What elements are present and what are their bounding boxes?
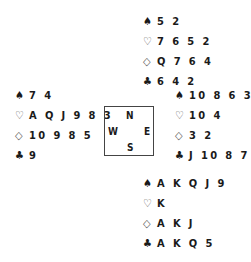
heart-icon: ♡ [175, 106, 189, 126]
diamond-icon: ◇ [175, 126, 189, 146]
compass-north: N [126, 110, 134, 121]
north-spades: ♠5 2 [143, 12, 213, 32]
spade-icon: ♠ [15, 86, 29, 106]
compass-south: S [127, 142, 133, 153]
south-clubs: ♣A K Q 5 [143, 234, 227, 254]
diamond-icon: ◇ [143, 52, 157, 72]
club-icon: ♣ [143, 72, 157, 92]
north-diamonds: ◇Q 7 6 4 [143, 52, 213, 72]
heart-icon: ♡ [143, 194, 157, 214]
club-icon: ♣ [175, 146, 189, 166]
club-icon: ♣ [143, 234, 157, 254]
north-hearts: ♡7 6 5 2 [143, 32, 213, 52]
west-hand: ♠7 4 ♡A Q J 9 8 3 ◇10 9 8 5 ♣9 [15, 86, 113, 166]
diamond-icon: ◇ [15, 126, 29, 146]
east-hearts: ♡10 4 [175, 106, 251, 126]
heart-icon: ♡ [143, 32, 157, 52]
compass-west: W [108, 126, 118, 137]
spade-icon: ♠ [175, 86, 189, 106]
east-clubs: ♣J 10 8 7 3 [175, 146, 251, 166]
spade-icon: ♠ [143, 174, 157, 194]
east-spades: ♠10 8 6 3 [175, 86, 251, 106]
east-hand: ♠10 8 6 3 ♡10 4 ◇3 2 ♣J 10 8 7 3 [175, 86, 251, 166]
heart-icon: ♡ [15, 106, 29, 126]
west-clubs: ♣9 [15, 146, 113, 166]
north-hand: ♠5 2 ♡7 6 5 2 ◇Q 7 6 4 ♣6 4 2 [143, 12, 213, 92]
south-diamonds: ◇A K J [143, 214, 227, 234]
diamond-icon: ◇ [143, 214, 157, 234]
west-spades: ♠7 4 [15, 86, 113, 106]
south-spades: ♠A K Q J 9 [143, 174, 227, 194]
south-hand: ♠A K Q J 9 ♡K ◇A K J ♣A K Q 5 [143, 174, 227, 254]
east-diamonds: ◇3 2 [175, 126, 251, 146]
compass-east: E [144, 126, 150, 137]
west-diamonds: ◇10 9 8 5 [15, 126, 113, 146]
south-hearts: ♡K [143, 194, 227, 214]
west-hearts: ♡A Q J 9 8 3 [15, 106, 113, 126]
spade-icon: ♠ [143, 12, 157, 32]
club-icon: ♣ [15, 146, 29, 166]
compass-box: N W E S [104, 106, 154, 156]
